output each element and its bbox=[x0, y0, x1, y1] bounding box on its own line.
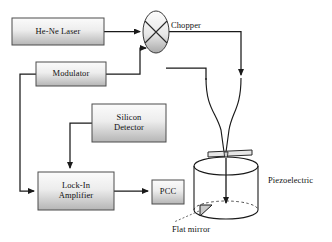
flat-mirror-icon bbox=[200, 205, 212, 216]
block-modulator bbox=[36, 62, 106, 86]
link-detector-to-lockin bbox=[70, 123, 92, 168]
block-pcc bbox=[152, 180, 184, 204]
link-sample-to-detector bbox=[166, 68, 206, 80]
laser-beam-paths bbox=[206, 78, 241, 152]
chopper-icon bbox=[143, 11, 169, 53]
label-piezoelectric: Piezoelectric bbox=[268, 175, 313, 185]
block-he-ne-laser bbox=[12, 18, 104, 45]
label-chopper: Chopper bbox=[171, 20, 201, 30]
diagram-canvas: He-Ne Laser Modulator Silicon Detector L… bbox=[0, 0, 332, 242]
flat-mirror-leader bbox=[174, 211, 199, 222]
beam-reflected bbox=[206, 78, 224, 152]
diagram-vector-layer bbox=[0, 0, 332, 242]
block-silicon-detector bbox=[92, 104, 166, 142]
label-flat-mirror: Flat mirror bbox=[172, 224, 210, 234]
block-lock-in-amplifier bbox=[38, 172, 114, 210]
link-modulator-to-chopper bbox=[106, 48, 146, 74]
link-modulator-to-lockin bbox=[20, 74, 36, 191]
beam-incident bbox=[226, 78, 241, 152]
